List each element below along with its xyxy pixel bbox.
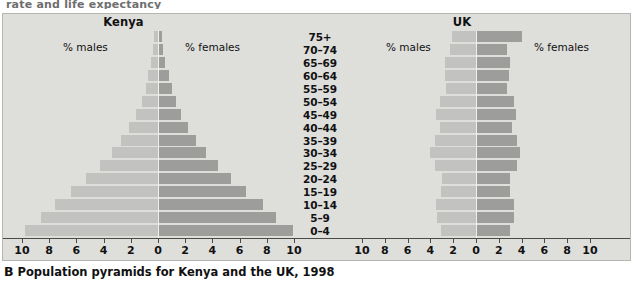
bar-female xyxy=(158,83,172,94)
x-axis-line-uk xyxy=(348,238,631,239)
axis-tick-label: 2 xyxy=(127,244,135,257)
age-group-label: 0–4 xyxy=(291,225,349,238)
bar-male xyxy=(148,70,158,81)
pyramid-row xyxy=(348,57,631,70)
bar-male xyxy=(435,160,476,171)
bar-female xyxy=(158,96,176,107)
axis-tick xyxy=(267,238,268,243)
plot-area-uk: % males % females xyxy=(348,31,631,238)
age-group-label: 20–24 xyxy=(291,173,349,186)
axis-tick xyxy=(104,238,105,243)
axis-tick-label: 8 xyxy=(381,244,389,257)
bar-male xyxy=(41,212,158,223)
bar-male xyxy=(142,96,158,107)
age-group-label: 10–14 xyxy=(291,199,349,212)
pyramid-row xyxy=(348,225,631,238)
bar-female xyxy=(476,147,520,158)
bar-female xyxy=(158,147,206,158)
age-group-label: 65–69 xyxy=(291,57,349,70)
axis-tick-label: 6 xyxy=(236,244,244,257)
age-group-label: 25–29 xyxy=(291,160,349,173)
pyramid-row xyxy=(348,212,631,225)
age-group-label: 15–19 xyxy=(291,186,349,199)
bar-male xyxy=(436,109,476,120)
bar-female xyxy=(476,96,514,107)
axis-tick xyxy=(476,238,477,243)
axis-tick-label: 10 xyxy=(354,244,369,257)
x-axis-uk: 1086420246810 xyxy=(348,238,631,260)
bar-male xyxy=(440,96,476,107)
axis-tick-label: 6 xyxy=(404,244,412,257)
pyramid-row xyxy=(348,135,631,148)
pyramid-row xyxy=(348,147,631,160)
panel-title-uk: UK xyxy=(320,15,604,29)
bar-female xyxy=(158,199,263,210)
axis-tick xyxy=(49,238,50,243)
bar-female xyxy=(158,109,181,120)
axis-tick xyxy=(590,238,591,243)
bar-male xyxy=(440,122,476,133)
axis-tick xyxy=(362,238,363,243)
axis-tick-label: 4 xyxy=(427,244,435,257)
legend-females-kenya: % females xyxy=(185,41,240,53)
bar-male xyxy=(121,135,158,146)
age-group-label: 50–54 xyxy=(291,96,349,109)
figure-population-pyramids: Kenya % males % females 1086420246810 75… xyxy=(2,13,631,261)
bar-male xyxy=(129,122,158,133)
bar-male xyxy=(151,57,158,68)
axis-tick-label: 4 xyxy=(100,244,108,257)
axis-tick-label: 2 xyxy=(449,244,457,257)
axis-tick xyxy=(76,238,77,243)
axis-tick xyxy=(131,238,132,243)
x-axis-kenya: 1086420246810 xyxy=(3,238,348,260)
age-group-label: 75+ xyxy=(291,31,349,44)
axis-tick xyxy=(499,238,500,243)
age-group-label: 30–34 xyxy=(291,147,349,160)
bar-female xyxy=(158,135,196,146)
pyramid-row xyxy=(348,109,631,122)
axis-tick-label: 8 xyxy=(563,244,571,257)
x-axis-line-kenya xyxy=(3,238,348,239)
age-group-label: 35–39 xyxy=(291,135,349,148)
bar-male xyxy=(452,31,476,42)
age-group-label: 60–64 xyxy=(291,70,349,83)
axis-tick-label: 6 xyxy=(73,244,81,257)
centre-axis-line-uk xyxy=(476,31,477,238)
bar-male xyxy=(435,135,476,146)
bar-female xyxy=(158,173,231,184)
bar-female xyxy=(158,122,188,133)
bar-female xyxy=(476,109,516,120)
bar-male xyxy=(100,160,158,171)
bar-female xyxy=(476,212,514,223)
axis-tick xyxy=(158,238,159,243)
axis-tick xyxy=(385,238,386,243)
pyramid-row xyxy=(348,160,631,173)
axis-tick-label: 4 xyxy=(209,244,217,257)
legend-females-uk: % females xyxy=(534,41,589,53)
bar-male xyxy=(112,147,158,158)
axis-tick xyxy=(185,238,186,243)
bar-male xyxy=(86,173,158,184)
axis-tick-label: 10 xyxy=(14,244,29,257)
axis-tick-label: 0 xyxy=(154,244,162,257)
bar-male xyxy=(430,147,476,158)
axis-tick xyxy=(294,238,295,243)
figure-caption: BPopulation pyramids for Kenya and the U… xyxy=(4,264,335,279)
bar-female xyxy=(158,57,165,68)
pyramid-row xyxy=(348,96,631,109)
axis-tick-label: 6 xyxy=(541,244,549,257)
bar-male xyxy=(436,199,476,210)
bar-male xyxy=(25,225,158,236)
bar-female xyxy=(476,70,509,81)
axis-tick-label: 10 xyxy=(582,244,597,257)
bar-female xyxy=(476,83,507,94)
bar-female xyxy=(476,160,517,171)
bar-male xyxy=(55,199,158,210)
age-group-label: 55–59 xyxy=(291,83,349,96)
bar-male xyxy=(446,83,476,94)
axis-tick xyxy=(522,238,523,243)
pyramid-row xyxy=(348,83,631,96)
axis-tick xyxy=(430,238,431,243)
axis-tick xyxy=(453,238,454,243)
axis-tick-label: 8 xyxy=(45,244,53,257)
